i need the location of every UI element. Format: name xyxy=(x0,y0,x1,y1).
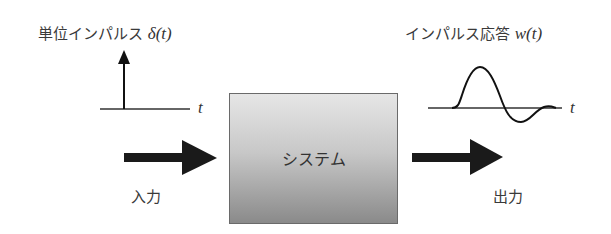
output-signal-symbol: w(t) xyxy=(515,24,542,43)
input-arrowhead-icon xyxy=(182,140,217,175)
output-arrow-label: 出力 xyxy=(493,185,523,206)
input-arrow-shaft xyxy=(124,153,186,162)
output-signal-label: インパルス応答 xyxy=(405,25,510,43)
output-signal-title: インパルス応答 w(t) xyxy=(405,22,542,44)
output-arrowhead-icon xyxy=(470,139,503,175)
input-axis-label: t xyxy=(198,98,203,118)
input-arrow-label: 入力 xyxy=(131,185,161,206)
input-signal-title: 単位インパルス δ(t) xyxy=(38,22,172,44)
output-arrow-shaft xyxy=(412,153,476,162)
input-signal-symbol: δ(t) xyxy=(148,24,172,43)
impulse-response-curve xyxy=(452,67,556,122)
system-block: システム xyxy=(229,93,398,224)
impulse-arrowhead-icon xyxy=(118,50,130,64)
system-label: システム xyxy=(230,146,397,170)
input-signal-label: 単位インパルス xyxy=(38,25,143,43)
output-axis-label: t xyxy=(570,98,575,118)
